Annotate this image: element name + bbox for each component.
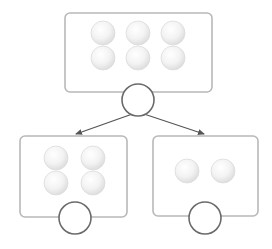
port-circle [59,202,91,234]
port-circle [122,84,154,116]
ball-icon [175,159,199,183]
ball-icon [81,171,105,195]
ball-icon [126,46,150,70]
split-diagram [0,0,272,249]
ball-icon [44,146,68,170]
arrow-left-child [76,112,138,134]
ball-icon [211,159,235,183]
ball-icon [126,21,150,45]
node-left-child [20,136,127,234]
ball-icon [91,46,115,70]
ball-icon [44,171,68,195]
port-circle [189,202,221,234]
node-right-child [153,136,258,234]
nodes [20,13,258,234]
ball-icon [161,46,185,70]
ball-icon [91,21,115,45]
ball-icon [81,146,105,170]
arrow-right-child [138,112,204,134]
node-root [65,13,212,116]
ball-icon [161,21,185,45]
